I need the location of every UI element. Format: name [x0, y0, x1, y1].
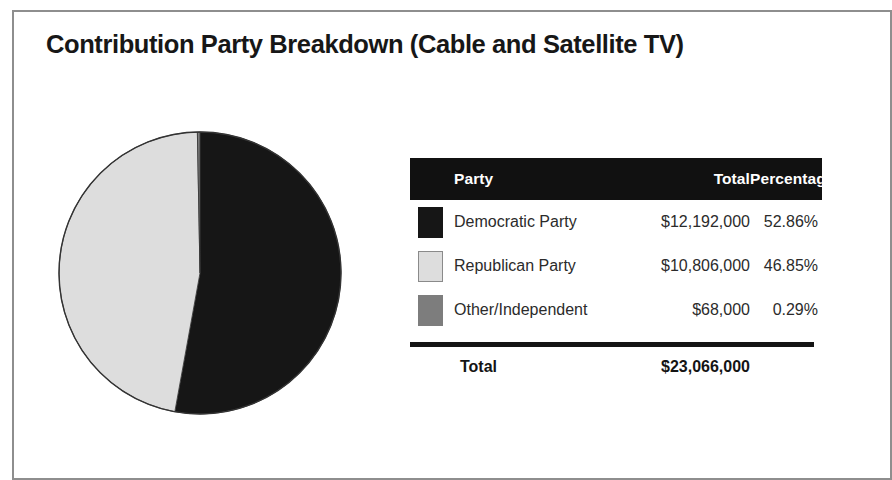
pie-chart [58, 131, 342, 415]
row-percentage-value: 52.86% [750, 213, 830, 231]
table-header-row: Party Total Percentage [410, 158, 822, 200]
row-total-value: $12,192,000 [636, 213, 750, 231]
row-party-name: Other/Independent [454, 301, 636, 319]
legend-swatch-republican [418, 251, 443, 282]
row-party-name: Republican Party [454, 257, 636, 275]
row-total-value: $10,806,000 [636, 257, 750, 275]
row-party-name: Democratic Party [454, 213, 636, 231]
table-row: Republican Party $10,806,000 46.85% [410, 244, 822, 288]
legend-swatch-cell [410, 251, 454, 282]
column-header-party: Party [454, 170, 636, 188]
column-header-percentage: Percentage [750, 170, 830, 188]
row-total-value: $68,000 [636, 301, 750, 319]
column-header-total: Total [636, 170, 750, 188]
row-percentage-value: 46.85% [750, 257, 830, 275]
total-value: $23,066,000 [636, 358, 750, 376]
total-label: Total [454, 358, 636, 376]
legend-swatch-cell [410, 295, 454, 326]
legend-swatch-democratic [418, 207, 443, 238]
table-row: Democratic Party $12,192,000 52.86% [410, 200, 822, 244]
table-row: Other/Independent $68,000 0.29% [410, 288, 822, 332]
pie-chart-svg [58, 131, 342, 415]
pie-slice-republican-party [59, 132, 200, 412]
page-title: Contribution Party Breakdown (Cable and … [46, 30, 806, 59]
legend-swatch-other [418, 295, 443, 326]
table-total-row: Total $23,066,000 [410, 347, 822, 387]
breakdown-table: Party Total Percentage Democratic Party … [410, 158, 822, 387]
row-percentage-value: 0.29% [750, 301, 830, 319]
legend-swatch-cell [410, 207, 454, 238]
